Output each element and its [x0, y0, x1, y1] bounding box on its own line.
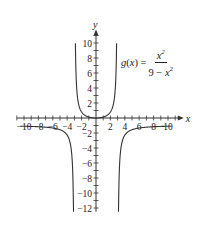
y-tick-label: −4 — [82, 144, 92, 154]
y-tick-label: 8 — [87, 54, 92, 64]
y-tick-label: −6 — [82, 159, 92, 169]
y-tick-label: 4 — [87, 84, 92, 94]
function-curve — [20, 126, 73, 212]
x-tick-label: −4 — [62, 122, 72, 132]
y-tick-label: −2 — [82, 129, 92, 139]
formula-numerator: x2 — [155, 46, 167, 63]
function-graph: −10−8−6−4−2246810 −12−10−8−6−4−2246810 x… — [0, 0, 198, 231]
x-axis-label: x — [185, 113, 191, 124]
y-tick-label: −8 — [82, 174, 92, 184]
formula-fraction: x2 9 − x2 — [148, 46, 173, 78]
y-tick-label: 6 — [87, 69, 92, 79]
formula-denominator: 9 − x2 — [148, 63, 173, 79]
y-tick-label: −12 — [77, 204, 92, 214]
y-tick-label: −10 — [77, 189, 92, 199]
formula-lhs: g(x) = — [121, 57, 146, 68]
function-curve — [118, 126, 171, 212]
x-tick-label: 6 — [137, 122, 142, 132]
function-formula: g(x) = x2 9 − x2 — [121, 46, 173, 78]
x-axis-arrow-icon — [178, 116, 184, 121]
x-tick-label: 10 — [163, 122, 173, 132]
x-tick-label: −10 — [17, 122, 32, 132]
y-tick-label: 10 — [83, 39, 93, 49]
x-tick-label: 4 — [122, 122, 127, 132]
x-tick-label: 2 — [108, 122, 113, 132]
y-tick-label: 2 — [87, 99, 92, 109]
y-axis-arrow-icon — [94, 30, 99, 36]
y-axis-label: y — [92, 19, 98, 30]
